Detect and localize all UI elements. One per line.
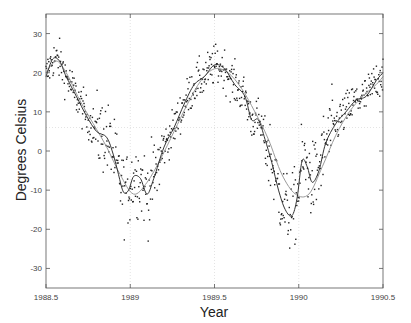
y-tick-label: 20 — [33, 69, 42, 78]
temperature-chart: -30-20-100102030 1988.519891989.51990199… — [0, 0, 411, 323]
plot-frame — [46, 14, 383, 288]
y-tick-label: 0 — [38, 147, 43, 156]
x-tick-label: 1988.5 — [34, 293, 59, 302]
y-tick-label: 10 — [33, 108, 42, 117]
y-tick-label: -20 — [30, 225, 42, 234]
y-tick-label: -10 — [30, 186, 42, 195]
y-tick-label: -30 — [30, 264, 42, 273]
local-fit-line — [46, 58, 383, 216]
x-axis-title: Year — [200, 304, 229, 320]
y-tick-label: 30 — [33, 30, 42, 39]
x-tick-label: 1989.5 — [202, 293, 227, 302]
x-tick-label: 1990.5 — [371, 293, 396, 302]
y-axis-ticks: -30-20-100102030 — [30, 30, 383, 274]
y-axis-title: Degrees Celsius — [13, 99, 29, 202]
x-tick-label: 1990 — [290, 293, 308, 302]
grid-lines — [46, 14, 383, 288]
x-tick-label: 1989 — [121, 293, 139, 302]
